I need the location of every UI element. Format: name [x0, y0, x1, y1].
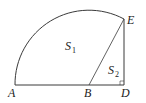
label-E: E: [126, 13, 135, 27]
right-angle-mark: [120, 81, 124, 85]
label-D: D: [120, 86, 130, 100]
label-B: B: [84, 86, 92, 100]
geometry-diagram: A B D E S 1 S 2: [0, 0, 146, 103]
label-S1-sub: 1: [72, 46, 76, 55]
label-A: A: [7, 86, 16, 100]
label-S2-sub: 2: [115, 70, 119, 79]
label-S1: S: [65, 39, 71, 53]
label-S2: S: [108, 63, 114, 77]
